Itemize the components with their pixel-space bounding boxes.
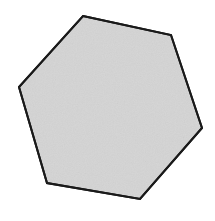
hexagon-texture: [0, 0, 215, 221]
hexagon-figure: [0, 0, 215, 221]
figure-canvas: [0, 0, 215, 221]
